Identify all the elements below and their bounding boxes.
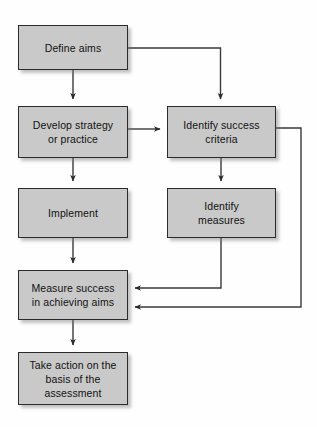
node-take-action-label: Take action on the basis of the assessme… [29, 358, 116, 400]
connector-identify-measures-to-measure-success [135, 238, 221, 288]
node-identify-measures: Identify measures [167, 188, 276, 238]
node-identify-success-criteria-label: Identify success criteria [183, 118, 259, 146]
connector-define-aims-to-identify-success-criteria [128, 48, 221, 99]
node-define-aims: Define aims [18, 25, 128, 70]
node-implement: Implement [18, 188, 128, 238]
node-implement-label: Implement [48, 206, 98, 220]
node-identify-measures-label: Identify measures [198, 199, 245, 227]
node-develop-strategy: Develop strategy or practice [18, 106, 128, 158]
node-measure-success-label: Measure success in achieving aims [31, 281, 114, 309]
node-define-aims-label: Define aims [45, 41, 102, 55]
node-measure-success: Measure success in achieving aims [18, 270, 128, 320]
node-develop-strategy-label: Develop strategy or practice [33, 118, 113, 146]
node-take-action: Take action on the basis of the assessme… [18, 352, 128, 405]
node-identify-success-criteria: Identify success criteria [167, 106, 276, 158]
flowchart-diagram: Define aims Develop strategy or practice… [0, 0, 317, 427]
